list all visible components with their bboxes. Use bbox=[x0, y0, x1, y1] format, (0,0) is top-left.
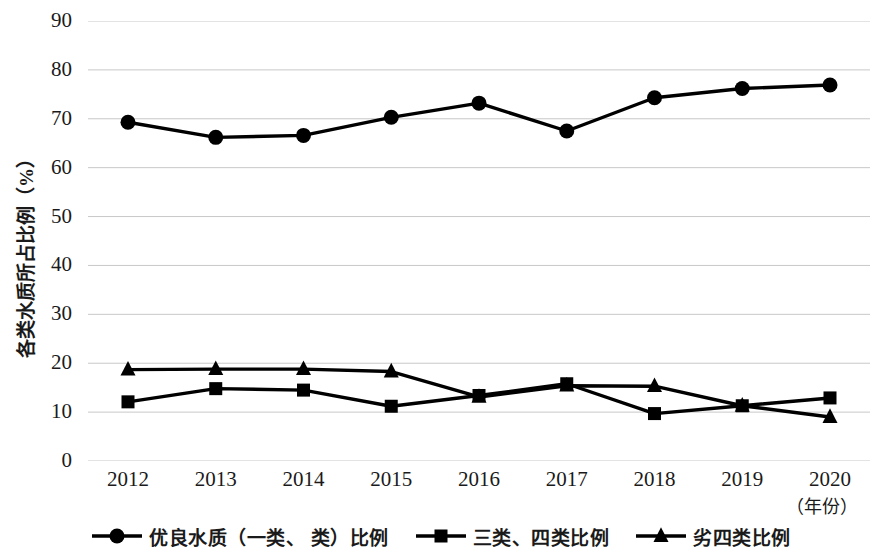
data-point-square bbox=[385, 400, 398, 413]
water-quality-line-chart: 各类水质所占比例（%） 9080706050403020100 20122013… bbox=[0, 0, 882, 554]
x-tick-label: 2012 bbox=[83, 468, 173, 491]
data-point-circle bbox=[735, 81, 750, 96]
x-axis-tick-labels: 201220132014201520162017201820192020 bbox=[88, 468, 870, 500]
chart-legend: 优良水质（一类、 类）比例三类、四类比例劣四类比例 bbox=[0, 518, 882, 554]
x-tick-label: 2016 bbox=[434, 468, 524, 491]
data-point-circle bbox=[472, 96, 487, 111]
legend-item[interactable]: 三类、四类比例 bbox=[415, 523, 610, 550]
y-tick-label: 60 bbox=[26, 157, 72, 178]
legend-item-label: 三类、四类比例 bbox=[473, 523, 610, 550]
legend-marker-triangle-icon bbox=[635, 525, 687, 547]
data-point-circle bbox=[110, 529, 125, 544]
y-tick-label: 30 bbox=[26, 303, 72, 324]
data-point-circle bbox=[121, 115, 136, 130]
legend-item-label: 优良水质（一类、 类）比例 bbox=[149, 523, 388, 550]
series-line bbox=[128, 85, 830, 137]
data-point-circle bbox=[559, 124, 574, 139]
data-point-square bbox=[209, 382, 222, 395]
y-tick-label: 80 bbox=[26, 59, 72, 80]
x-tick-label: 2015 bbox=[346, 468, 436, 491]
legend-marker-circle-icon bbox=[91, 525, 143, 547]
y-tick-label: 90 bbox=[26, 10, 72, 31]
x-tick-label: 2019 bbox=[697, 468, 787, 491]
data-point-square bbox=[297, 384, 310, 397]
x-tick-label: 2018 bbox=[610, 468, 700, 491]
legend-item[interactable]: 优良水质（一类、 类）比例 bbox=[91, 523, 388, 550]
y-axis-tick-labels: 9080706050403020100 bbox=[26, 0, 72, 554]
x-axis-unit-label: （年份） bbox=[786, 492, 858, 518]
x-tick-label: 2017 bbox=[522, 468, 612, 491]
y-tick-label: 10 bbox=[26, 401, 72, 422]
x-tick-label: 2013 bbox=[171, 468, 261, 491]
data-point-circle bbox=[296, 128, 311, 143]
y-tick-label: 50 bbox=[26, 206, 72, 227]
legend-marker-square-icon bbox=[415, 525, 467, 547]
y-tick-label: 0 bbox=[26, 450, 72, 471]
legend-item[interactable]: 劣四类比例 bbox=[635, 523, 791, 550]
data-point-circle bbox=[384, 110, 399, 125]
data-point-circle bbox=[823, 78, 838, 93]
series-circle bbox=[121, 78, 838, 145]
y-tick-label: 20 bbox=[26, 352, 72, 373]
data-point-square bbox=[648, 407, 661, 420]
x-tick-label: 2014 bbox=[259, 468, 349, 491]
data-point-square bbox=[824, 391, 837, 404]
y-tick-label: 40 bbox=[26, 254, 72, 275]
x-tick-label: 2020 bbox=[785, 468, 875, 491]
legend-item-label: 劣四类比例 bbox=[693, 523, 791, 550]
data-point-square bbox=[434, 530, 447, 543]
y-tick-label: 70 bbox=[26, 108, 72, 129]
data-point-circle bbox=[208, 130, 223, 145]
series-triangle bbox=[121, 360, 838, 422]
chart-svg bbox=[88, 21, 870, 461]
plot-area bbox=[88, 21, 870, 461]
data-point-circle bbox=[647, 90, 662, 105]
data-point-square bbox=[122, 395, 135, 408]
